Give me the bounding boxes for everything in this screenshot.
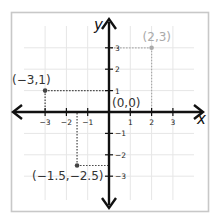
point-label: (−3,1) <box>12 73 51 87</box>
y-tick-label: −3 <box>115 172 126 181</box>
origin-label: (0,0) <box>112 96 140 110</box>
y-tick-label: 2 <box>115 65 120 74</box>
coordinate-plane-figure: −3−2−1123321−1−2−3 (−3,1)(2,3)(−1.5,−2.5… <box>0 0 219 224</box>
y-axis-label: y <box>93 16 104 34</box>
x-axis-label: x <box>196 110 206 128</box>
y-tick-label: 3 <box>115 44 120 53</box>
x-tick-label: 1 <box>128 118 133 127</box>
x-tick-label: −1 <box>82 118 93 127</box>
y-tick-label: 1 <box>115 87 120 96</box>
point-label: (2,3) <box>143 30 171 44</box>
x-tick-label: −2 <box>61 118 72 127</box>
point-marker <box>43 88 48 93</box>
point-marker <box>149 46 154 51</box>
y-tick-label: −1 <box>115 129 126 138</box>
point-marker <box>75 163 80 168</box>
coordinate-plane: −3−2−1123321−1−2−3 (−3,1)(2,3)(−1.5,−2.5… <box>0 0 219 224</box>
x-tick-label: −3 <box>40 118 51 127</box>
x-tick-label: 3 <box>171 118 176 127</box>
point-label: (−1.5,−2.5) <box>32 169 103 183</box>
y-tick-label: −2 <box>115 151 126 160</box>
x-tick-label: 2 <box>149 118 154 127</box>
